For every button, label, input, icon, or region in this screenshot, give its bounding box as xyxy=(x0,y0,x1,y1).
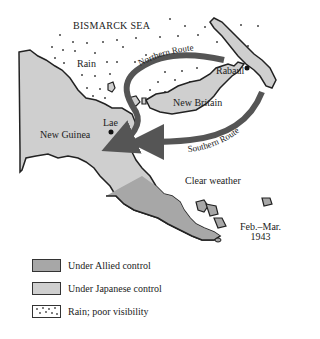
rain-label: Rain xyxy=(77,59,96,69)
legend-item-rain: Rain; poor visibility xyxy=(32,304,162,318)
lae-marker xyxy=(109,130,114,135)
new-guinea-label: New Guinea xyxy=(40,130,90,140)
japanese-swatch xyxy=(32,282,61,295)
legend-label: Under Japanese control xyxy=(68,283,162,294)
rabaul-marker xyxy=(245,66,250,71)
island xyxy=(206,204,218,216)
date-label-year: 1943 xyxy=(240,232,281,242)
island xyxy=(142,98,146,104)
legend: Under Allied control Under Japanese cont… xyxy=(32,258,162,327)
legend-label: Under Allied control xyxy=(68,260,151,271)
sea-label: BISMARCK SEA xyxy=(73,21,150,31)
island xyxy=(215,238,221,242)
legend-label: Rain; poor visibility xyxy=(68,306,149,317)
lae-label: Lae xyxy=(103,118,118,128)
date-label: Feb.–Mar. 1943 xyxy=(240,222,281,242)
clear-weather-label: Clear weather xyxy=(185,176,241,186)
island xyxy=(262,198,272,206)
rabaul-label: Rabaul xyxy=(216,66,244,76)
allied-swatch xyxy=(32,259,61,272)
rain-swatch xyxy=(32,305,61,318)
island xyxy=(214,218,226,228)
legend-item-japanese: Under Japanese control xyxy=(32,281,162,295)
island xyxy=(108,82,115,92)
legend-item-allied: Under Allied control xyxy=(32,258,162,272)
new-britain-label: New Britain xyxy=(173,98,222,108)
